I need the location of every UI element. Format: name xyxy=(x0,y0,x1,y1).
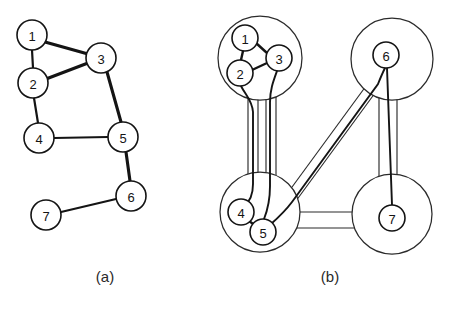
cluster-node-4[interactable]: 4 xyxy=(228,199,254,225)
edge-5-6 xyxy=(126,152,130,181)
cluster-node-1[interactable]: 1 xyxy=(232,25,258,51)
tube-h-fill xyxy=(292,212,360,228)
cluster-node-6-label: 6 xyxy=(382,49,389,64)
cluster-node-3[interactable]: 3 xyxy=(266,45,292,71)
node-3[interactable]: 3 xyxy=(86,43,116,73)
cluster-node-7-label: 7 xyxy=(388,212,395,227)
cluster-node-4-label: 4 xyxy=(237,206,244,221)
tube-b-fill xyxy=(266,92,276,182)
tube-bottomleft-topright xyxy=(284,86,375,205)
edge-2-3 xyxy=(46,63,88,79)
node-2-label: 2 xyxy=(29,77,36,92)
tube-diag-wall-upper xyxy=(284,86,366,198)
node-4[interactable]: 4 xyxy=(24,123,54,153)
node-3-label: 3 xyxy=(97,52,104,67)
node-1[interactable]: 1 xyxy=(17,20,47,50)
panel-b-graph: 1 2 3 4 5 xyxy=(218,16,433,254)
edge-3-5 xyxy=(107,72,121,122)
node-2[interactable]: 2 xyxy=(18,68,48,98)
node-6[interactable]: 6 xyxy=(116,181,146,211)
figure-canvas: 1 2 3 4 5 xyxy=(0,0,451,310)
figure-root: 1 2 3 4 5 xyxy=(0,0,451,310)
cluster-node-5[interactable]: 5 xyxy=(250,219,276,245)
node-7[interactable]: 7 xyxy=(31,200,61,230)
edge-2-4 xyxy=(34,98,38,123)
edge-4-5 xyxy=(54,137,108,138)
node-4-label: 4 xyxy=(35,132,42,147)
tube-diag-fill xyxy=(286,88,374,196)
edge-1-2 xyxy=(32,50,33,68)
node-1-label: 1 xyxy=(28,29,35,44)
caption-panel-b: (b) xyxy=(310,268,350,285)
cluster-node-5-label: 5 xyxy=(259,226,266,241)
node-5[interactable]: 5 xyxy=(108,122,138,152)
cluster-node-6[interactable]: 6 xyxy=(373,42,399,68)
edge-6-7 xyxy=(61,199,116,212)
cluster-node-2-label: 2 xyxy=(236,67,243,82)
edge-1-3 xyxy=(45,42,88,54)
node-5-label: 5 xyxy=(119,131,126,146)
cluster-node-2[interactable]: 2 xyxy=(227,60,253,86)
cluster-node-7[interactable]: 7 xyxy=(379,205,405,231)
caption-panel-a: (a) xyxy=(85,268,125,285)
panel-a-graph: 1 2 3 4 5 xyxy=(17,20,146,230)
node-6-label: 6 xyxy=(127,190,134,205)
node-7-label: 7 xyxy=(42,209,49,224)
cluster-node-1-label: 1 xyxy=(241,32,248,47)
cluster-node-3-label: 3 xyxy=(275,52,282,67)
